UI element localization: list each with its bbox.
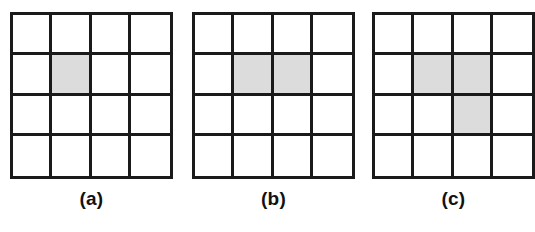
grid-cell — [131, 136, 170, 176]
grid-cell — [52, 96, 91, 136]
panel-label-c: (c) — [372, 188, 535, 210]
panel-b — [192, 12, 355, 179]
grid-cell — [92, 15, 131, 55]
grid-cell — [493, 96, 532, 136]
grid-cell — [274, 136, 313, 176]
grid-cell — [414, 96, 453, 136]
grid-cell — [195, 136, 234, 176]
grid-cell — [92, 96, 131, 136]
grid-cell — [131, 15, 170, 55]
grid-c — [372, 12, 535, 179]
grid-cell — [234, 136, 273, 176]
grid-a — [10, 12, 173, 179]
panel-c — [372, 12, 535, 179]
grid-cell-shaded — [274, 55, 313, 95]
grid-cell-shaded — [234, 55, 273, 95]
grid-cell — [274, 96, 313, 136]
grid-cell — [195, 55, 234, 95]
grid-cell — [13, 55, 52, 95]
grid-cell — [454, 15, 493, 55]
grid-cell — [313, 15, 352, 55]
grid-cell — [493, 136, 532, 176]
grid-cell — [52, 136, 91, 176]
panel-label-b: (b) — [192, 188, 355, 210]
figure-stage: (a) (b) (c) — [0, 0, 535, 232]
panel-label-a: (a) — [10, 188, 173, 210]
grid-cell — [234, 15, 273, 55]
grid-cell — [52, 15, 91, 55]
grid-b — [192, 12, 355, 179]
grid-cell — [274, 15, 313, 55]
grid-cell — [92, 136, 131, 176]
grid-cell — [375, 96, 414, 136]
grid-cell — [493, 15, 532, 55]
grid-cell — [234, 96, 273, 136]
grid-cell — [13, 15, 52, 55]
grid-cell — [195, 96, 234, 136]
grid-cell-shaded — [454, 96, 493, 136]
grid-cell — [92, 55, 131, 95]
grid-cell — [313, 136, 352, 176]
grid-cell — [414, 15, 453, 55]
grid-cell — [195, 15, 234, 55]
grid-cell — [375, 55, 414, 95]
panel-a — [10, 12, 173, 179]
grid-cell — [131, 96, 170, 136]
grid-cell — [13, 96, 52, 136]
grid-cell — [313, 55, 352, 95]
grid-cell — [375, 15, 414, 55]
grid-cell — [454, 136, 493, 176]
grid-cell — [375, 136, 414, 176]
grid-cell — [414, 136, 453, 176]
grid-cell — [13, 136, 52, 176]
grid-cell-shaded — [52, 55, 91, 95]
grid-cell-shaded — [454, 55, 493, 95]
grid-cell — [131, 55, 170, 95]
grid-cell-shaded — [414, 55, 453, 95]
grid-cell — [313, 96, 352, 136]
grid-cell — [493, 55, 532, 95]
